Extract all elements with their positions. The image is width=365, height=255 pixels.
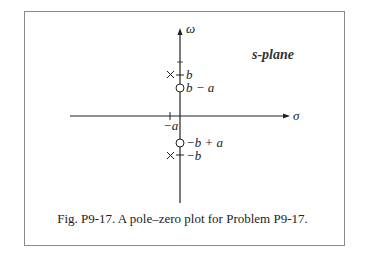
pole-x-icon xyxy=(167,152,174,159)
zero-o-icon xyxy=(176,84,184,92)
sigma-label: σ xyxy=(293,108,300,123)
sigma-arrow-icon xyxy=(283,114,290,119)
s-plane-label: s-plane xyxy=(252,47,294,63)
pole-x-icon xyxy=(167,71,174,78)
omega-label: ω xyxy=(186,21,195,36)
tick-label-neg-a: −a xyxy=(163,118,179,133)
pole-label-neg-b: −b xyxy=(186,148,202,163)
omega-arrow-icon xyxy=(178,28,183,35)
figure-caption: Fig. P9-17. A pole–zero plot for Problem… xyxy=(0,211,365,227)
zero-o-icon xyxy=(176,139,184,147)
zero-label-b-minus-a: b − a xyxy=(186,80,215,95)
